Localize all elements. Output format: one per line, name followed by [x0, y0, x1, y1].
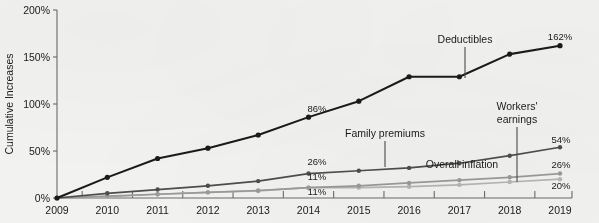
series-label-overall-inflation: Overall inflation — [426, 158, 499, 170]
series-point — [206, 190, 210, 194]
x-axis-tick-label: 2010 — [96, 204, 120, 216]
series-point — [508, 180, 512, 184]
x-axis-tick-label: 2015 — [347, 204, 371, 216]
series-point — [457, 178, 461, 182]
series-point — [155, 187, 159, 191]
series-point — [507, 52, 512, 57]
series-point — [558, 171, 562, 175]
series-point — [256, 179, 260, 183]
series-point — [508, 154, 512, 158]
x-axis-tick-label: 2016 — [397, 204, 421, 216]
line-chart-canvas: Cumulative Increases 0%50%100%150%200% 2… — [0, 0, 599, 223]
series-point — [256, 132, 261, 137]
series-point — [155, 192, 159, 196]
series-point — [557, 43, 562, 48]
series-label-workers-earnings-line1: Workers' — [497, 100, 538, 112]
series-label-workers-earnings-line2: earnings — [497, 113, 537, 125]
value-label-workers-2014: 11% — [308, 171, 327, 182]
series-point — [205, 146, 210, 151]
series-point — [508, 175, 512, 179]
y-axis-tick-label: 100% — [23, 98, 50, 110]
series-point — [357, 184, 361, 188]
y-axis-title: Cumulative Increases — [3, 54, 15, 155]
x-axis-tick-label: 2017 — [448, 204, 472, 216]
series-point — [457, 183, 461, 187]
value-label-deductibles-2014: 86% — [307, 103, 327, 114]
y-axis-tick-label: 200% — [23, 4, 50, 16]
x-axis-tick-label: 2009 — [45, 204, 69, 216]
value-label-family-2014: 26% — [307, 156, 327, 167]
series-point — [558, 145, 562, 149]
series-point — [306, 115, 311, 120]
value-label-inflation-2014: 11% — [308, 186, 327, 197]
series-point — [206, 184, 210, 188]
series-point — [155, 156, 160, 161]
series-point — [356, 99, 361, 104]
series-point — [105, 191, 109, 195]
y-axis-tick-label: 50% — [29, 145, 50, 157]
x-axis-tick-label: 2019 — [548, 204, 572, 216]
y-axis-tick-label: 150% — [23, 51, 50, 63]
x-axis-tick-label: 2012 — [196, 204, 220, 216]
series-point — [357, 169, 361, 173]
y-axis-tick-label: 0% — [35, 192, 50, 204]
series-point — [105, 175, 110, 180]
x-axis-tick-label: 2011 — [146, 204, 169, 216]
series-point — [256, 188, 260, 192]
x-axis-tick-label: 2013 — [247, 204, 271, 216]
x-axis-tick-label: 2014 — [297, 204, 321, 216]
series-point — [407, 74, 412, 79]
series-label-deductibles: Deductibles — [438, 33, 493, 45]
series-point — [457, 74, 462, 79]
series-point — [407, 185, 411, 189]
value-label-deductibles-2019: 162% — [548, 31, 573, 42]
series-point — [407, 181, 411, 185]
series-point — [407, 166, 411, 170]
series-point — [54, 195, 59, 200]
series-label-family-premiums: Family premiums — [345, 127, 425, 139]
x-axis-tick-label: 2018 — [498, 204, 522, 216]
chart-figure: Cumulative Increases 0%50%100%150%200% 2… — [0, 0, 599, 223]
value-label-workers-2019: 26% — [551, 159, 571, 170]
value-label-inflation-2019: 20% — [551, 180, 571, 191]
value-label-family-2019: 54% — [551, 134, 571, 145]
